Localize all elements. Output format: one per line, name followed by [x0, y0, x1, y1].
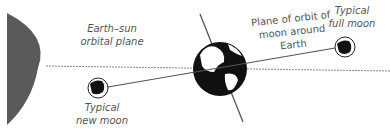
label-line: new moon [72, 114, 132, 127]
earth-icon [193, 42, 247, 96]
new-moon-icon [88, 78, 108, 98]
earth-sun-plane-label: Earth–sun orbital plane [72, 22, 152, 48]
label-line: Typical [72, 101, 132, 114]
sun-icon [7, 13, 41, 125]
full-moon-label: Typical full moon [322, 4, 382, 30]
new-moon-label: Typical new moon [72, 101, 132, 127]
label-line: Earth–sun [72, 22, 152, 35]
label-line: Typical [322, 4, 382, 17]
label-line: full moon [322, 17, 382, 30]
label-line: orbital plane [72, 35, 152, 48]
